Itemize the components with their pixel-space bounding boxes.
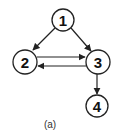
- figure-caption: (a): [44, 119, 56, 130]
- node-1-label: 1: [59, 12, 67, 29]
- node-2-label: 2: [21, 54, 29, 71]
- edge-1-to-3: [71, 28, 91, 51]
- edge-1-to-2: [33, 28, 55, 50]
- directed-graph: 1 2 3 4 (a): [0, 0, 118, 138]
- node-2: 2: [13, 50, 37, 74]
- node-4: 4: [86, 95, 108, 117]
- node-4-label: 4: [93, 98, 102, 115]
- node-3: 3: [86, 50, 110, 74]
- node-1: 1: [52, 9, 74, 31]
- node-3-label: 3: [94, 54, 102, 71]
